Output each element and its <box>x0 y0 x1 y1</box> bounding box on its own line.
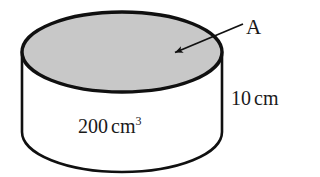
volume-value: 200 <box>78 115 108 137</box>
volume-unit: cm <box>111 115 135 137</box>
volume-exponent: 3 <box>135 114 141 128</box>
cylinder-top-face <box>22 12 222 92</box>
height-unit: cm <box>254 87 278 109</box>
height-label: 10cm <box>231 88 278 108</box>
height-value: 10 <box>231 87 251 109</box>
top-face-label-a: A <box>246 17 261 38</box>
volume-label: 200cm3 <box>78 116 141 136</box>
